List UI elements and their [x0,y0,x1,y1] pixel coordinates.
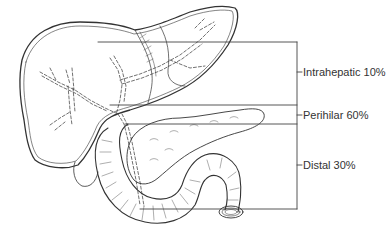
label-distal: Distal 30% [303,159,356,171]
pancreas [127,109,264,184]
duodenum [95,124,243,223]
anatomy-illustration [0,0,391,247]
label-perihilar: Perihilar 60% [303,109,368,121]
bile-ducts [40,18,215,206]
region-bracket [98,42,302,209]
label-intrahepatic: Intrahepatic 10% [303,66,386,78]
